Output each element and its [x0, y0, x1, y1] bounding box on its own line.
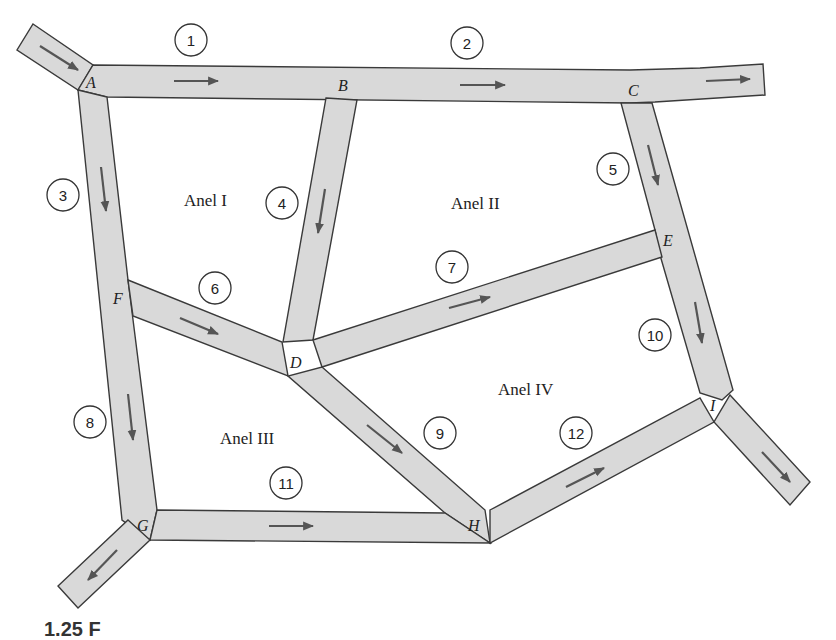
- road-11: [150, 510, 490, 543]
- edge-badge-10: 10: [639, 319, 671, 351]
- edge-badge-5: 5: [597, 153, 629, 185]
- loop-4-label: Anel IV: [498, 380, 554, 399]
- loop-3-label: Anel III: [220, 429, 275, 448]
- svg-text:2: 2: [463, 35, 471, 52]
- node-b-label: B: [338, 77, 348, 94]
- edge-badge-9: 9: [424, 417, 456, 449]
- node-i-label: I: [709, 397, 716, 414]
- node-c-label: C: [628, 82, 639, 99]
- road-12: [490, 398, 714, 543]
- loop-1-label: Anel I: [184, 191, 227, 210]
- svg-text:5: 5: [609, 161, 617, 178]
- road-exit-i: [714, 395, 810, 505]
- edge-badge-8: 8: [74, 406, 106, 438]
- svg-text:4: 4: [278, 195, 286, 212]
- svg-text:12: 12: [568, 425, 585, 442]
- svg-text:10: 10: [647, 327, 664, 344]
- road-1-2: [78, 64, 765, 103]
- road-entry-a: [17, 24, 93, 90]
- node-a-label: A: [85, 74, 96, 91]
- node-g-label: G: [137, 517, 149, 534]
- svg-text:1: 1: [187, 32, 195, 49]
- edge-badge-1: 1: [175, 24, 207, 56]
- loop-2-label: Anel II: [451, 194, 500, 213]
- roads: [17, 24, 810, 608]
- edge-badge-11: 11: [270, 467, 302, 499]
- edge-badge-4: 4: [266, 187, 298, 219]
- node-h-label: H: [467, 517, 481, 534]
- edge-badge-6: 6: [199, 272, 231, 304]
- svg-text:11: 11: [278, 475, 294, 492]
- figure-caption: 1.25 F: [44, 618, 101, 640]
- node-e-label: E: [662, 232, 673, 249]
- node-d-label: D: [289, 354, 302, 371]
- svg-text:7: 7: [448, 259, 456, 276]
- edge-badge-3: 3: [47, 179, 79, 211]
- svg-text:9: 9: [436, 425, 444, 442]
- svg-text:8: 8: [86, 414, 94, 431]
- svg-text:6: 6: [211, 280, 219, 297]
- edge-badge-2: 2: [451, 27, 483, 59]
- edge-badge-7: 7: [436, 251, 468, 283]
- node-f-label: F: [112, 290, 123, 307]
- svg-text:3: 3: [59, 187, 67, 204]
- edge-badge-12: 12: [560, 417, 592, 449]
